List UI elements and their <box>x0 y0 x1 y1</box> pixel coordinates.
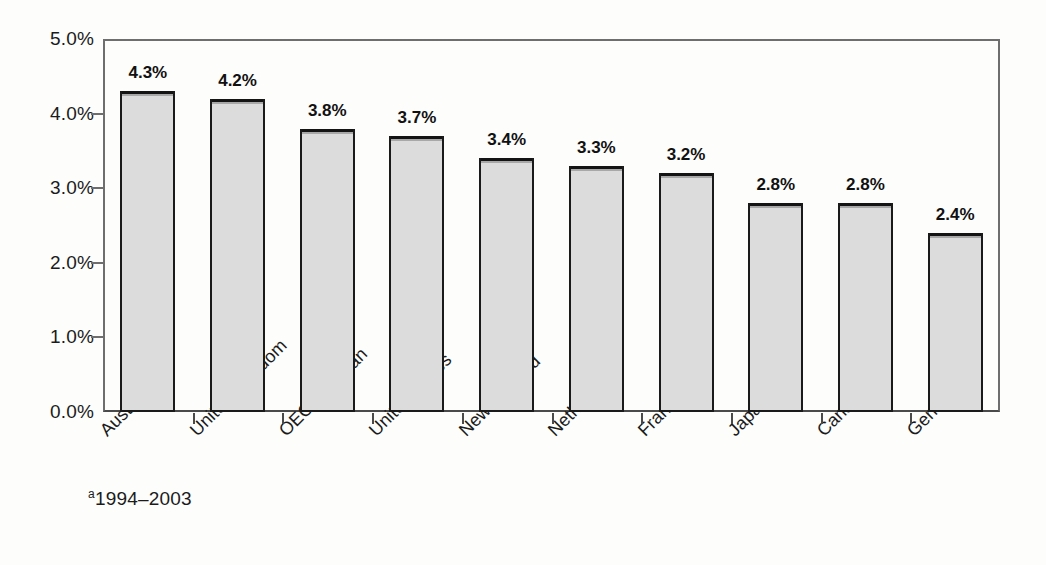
bar-top-cap <box>212 99 263 104</box>
bar <box>838 203 893 412</box>
footnote-text: 1994–2003 <box>95 488 192 509</box>
bar <box>569 166 624 412</box>
bar-top-cap <box>661 173 712 178</box>
footnote-marker: a <box>88 487 95 501</box>
x-axis-tick-mark <box>462 413 464 424</box>
bar-value-label: 4.2% <box>218 71 257 91</box>
bar-top-cap <box>750 203 801 208</box>
x-axis-tick-mark <box>372 413 374 424</box>
x-axis-tick-mark <box>282 413 284 424</box>
bar-value-label: 2.4% <box>936 205 975 225</box>
y-axis-tick-label: 0.0% <box>10 401 94 423</box>
bar-value-label: 4.3% <box>128 63 167 83</box>
x-axis-tick-mark <box>821 413 823 424</box>
y-axis-tick-label: 3.0% <box>10 177 94 199</box>
bar <box>300 129 355 412</box>
x-axis-tick-mark <box>193 413 195 424</box>
bar <box>120 91 175 412</box>
bar-top-cap <box>391 136 442 141</box>
bar-value-label: 3.3% <box>577 138 616 158</box>
bar-value-label: 3.8% <box>308 101 347 121</box>
bar-value-label: 2.8% <box>846 175 885 195</box>
bar-top-cap <box>930 233 981 238</box>
x-axis-tick-mark <box>552 413 554 424</box>
bar-top-cap <box>840 203 891 208</box>
y-axis: 0.0%1.0%2.0%3.0%4.0%5.0% <box>0 0 94 565</box>
y-axis-tick-label: 5.0% <box>10 28 94 50</box>
chart-figure: 0.0%1.0%2.0%3.0%4.0%5.0% AustraliaaUnite… <box>0 0 1046 565</box>
bar-top-cap <box>571 166 622 171</box>
bar-top-cap <box>302 129 353 134</box>
y-axis-tick-label: 4.0% <box>10 103 94 125</box>
bar <box>928 233 983 412</box>
bar <box>748 203 803 412</box>
bar-value-label: 3.2% <box>667 145 706 165</box>
bar-value-label: 3.4% <box>487 130 526 150</box>
y-axis-tick-label: 2.0% <box>10 252 94 274</box>
bar <box>389 136 444 412</box>
bar <box>210 99 265 412</box>
x-axis-tick-mark <box>731 413 733 424</box>
bar <box>479 158 534 412</box>
chart-footnote: a1994–2003 <box>88 488 192 510</box>
bar-top-cap <box>481 158 532 163</box>
bar-value-label: 3.7% <box>398 108 437 128</box>
y-axis-tick-label: 1.0% <box>10 326 94 348</box>
bar <box>659 173 714 412</box>
bar-top-cap <box>122 91 173 96</box>
x-axis-tick-mark <box>641 413 643 424</box>
bar-value-label: 2.8% <box>756 175 795 195</box>
x-axis-tick-mark <box>910 413 912 424</box>
